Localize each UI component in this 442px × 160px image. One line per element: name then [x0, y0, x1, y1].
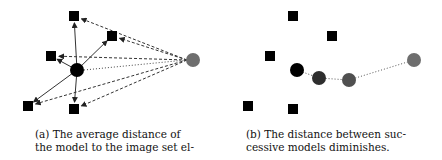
- solid-arrow: [74, 23, 77, 70]
- dashed-arrow: [81, 60, 187, 106]
- model-circle: [290, 63, 304, 77]
- image-point-square: [46, 51, 56, 61]
- model-circle: [407, 53, 421, 67]
- solid-arrow: [34, 70, 77, 102]
- diagram-canvas: [0, 0, 442, 125]
- dashed-arrow: [120, 38, 187, 60]
- caption-b: (b) The distance between suc- cessive mo…: [246, 128, 416, 154]
- image-point-square: [243, 101, 253, 111]
- image-point-square: [288, 11, 298, 21]
- dashed-arrow: [59, 56, 187, 60]
- image-point-square: [327, 31, 337, 41]
- caption-b-line2: cessive models diminishes.: [246, 141, 416, 154]
- caption-a: (a) The average distance of the model to…: [35, 128, 205, 154]
- target-circle: [186, 53, 200, 67]
- image-point-square: [265, 51, 275, 61]
- caption-b-line1: (b) The distance between suc-: [246, 128, 416, 141]
- model-circle: [70, 63, 84, 77]
- panel-a-diagram: [23, 11, 200, 114]
- image-point-square: [107, 31, 117, 41]
- dashed-arrow: [82, 19, 187, 60]
- image-point-square: [23, 101, 33, 111]
- dashed-arrow: [36, 60, 187, 104]
- model-circle: [312, 71, 326, 85]
- model-circle: [342, 73, 356, 87]
- caption-a-line1: (a) The average distance of: [35, 128, 205, 141]
- image-point-square: [288, 104, 298, 114]
- panel-b-diagram: [243, 11, 421, 114]
- image-point-square: [69, 11, 79, 21]
- image-point-square: [69, 104, 79, 114]
- caption-a-line2: the model to the image set el-: [35, 141, 205, 154]
